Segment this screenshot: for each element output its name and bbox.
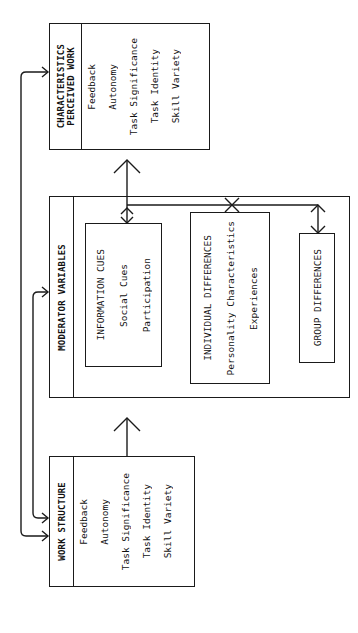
perceived-item-task-significance: Task Significance bbox=[128, 38, 139, 135]
work-structure-item-autonomy: Autonomy bbox=[99, 499, 110, 545]
group-differences-box: GROUP DIFFERENCES bbox=[299, 233, 335, 363]
perceived-header: CHARACTERISTICS PERCEIVED WORK bbox=[50, 24, 82, 149]
individual-differences-box: INDIVIDUAL DIFFERENCES Personality Chara… bbox=[190, 212, 270, 384]
perceived-item-feedback: Feedback bbox=[86, 64, 97, 110]
moderator-header: MODERATOR VARIABLES bbox=[50, 197, 74, 397]
perceived-work-characteristics-box: CHARACTERISTICS PERCEIVED WORK Skill Var… bbox=[49, 23, 210, 150]
group-differences-title: GROUP DIFFERENCES bbox=[312, 249, 323, 346]
individual-differences-item-experiences: Experiences bbox=[248, 267, 259, 330]
perceived-title-line1: PERCEIVED WORK bbox=[66, 47, 76, 126]
information-cues-item-social-cues: Social Cues bbox=[118, 264, 129, 327]
perceived-item-autonomy: Autonomy bbox=[107, 64, 118, 110]
individual-differences-item-personality: Personality Characteristics bbox=[225, 221, 236, 375]
work-structure-box: WORK STRUCTURE Skill Variety Task Identi… bbox=[49, 456, 195, 587]
work-structure-item-feedback: Feedback bbox=[78, 499, 89, 545]
information-cues-title: INFORMATION CUES bbox=[95, 249, 106, 341]
individual-differences-title: INDIVIDUAL DIFFERENCES bbox=[202, 235, 213, 361]
work-structure-header: WORK STRUCTURE bbox=[50, 457, 74, 586]
perceived-item-skill-variety: Skill Variety bbox=[170, 49, 181, 123]
work-structure-title: WORK STRUCTURE bbox=[57, 482, 67, 561]
perceived-item-task-identity: Task Identity bbox=[149, 49, 160, 123]
work-structure-item-skill-variety: Skill Variety bbox=[162, 484, 173, 558]
information-cues-item-participation: Participation bbox=[141, 258, 152, 332]
perceived-title-line2: CHARACTERISTICS bbox=[56, 44, 66, 128]
work-structure-item-task-identity: Task Identity bbox=[141, 484, 152, 558]
work-structure-item-task-significance: Task Significance bbox=[120, 473, 131, 570]
moderator-title: MODERATOR VARIABLES bbox=[57, 244, 67, 351]
information-cues-box: INFORMATION CUES Social Cues Participati… bbox=[85, 223, 162, 367]
